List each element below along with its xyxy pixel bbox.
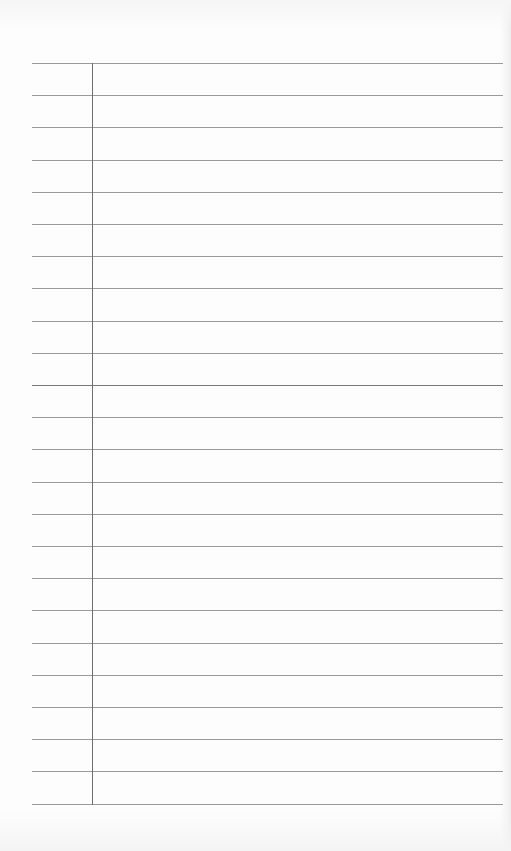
ruled-line	[32, 707, 503, 708]
ruled-line	[32, 160, 503, 161]
top-edge-shading	[0, 0, 511, 30]
ruled-line	[32, 256, 503, 257]
ruled-line	[32, 192, 503, 193]
ruled-line	[32, 675, 503, 676]
ruled-line	[32, 224, 503, 225]
ruled-line	[32, 771, 503, 772]
ruled-paper-sheet	[0, 0, 511, 851]
ruled-line	[32, 288, 503, 289]
ruled-line	[32, 643, 503, 644]
ruled-line	[32, 546, 503, 547]
ruled-line	[32, 385, 503, 386]
bottom-edge-shading	[0, 811, 511, 851]
ruled-line	[32, 353, 503, 354]
ruled-line	[32, 514, 503, 515]
ruled-line	[32, 482, 503, 483]
margin-line	[92, 63, 93, 805]
ruled-line	[32, 804, 503, 805]
ruled-line	[32, 63, 503, 64]
ruled-line	[32, 127, 503, 128]
ruled-line	[32, 95, 503, 96]
ruled-line	[32, 578, 503, 579]
ruled-line	[32, 321, 503, 322]
ruled-line	[32, 739, 503, 740]
ruled-line	[32, 610, 503, 611]
ruled-line	[32, 449, 503, 450]
ruled-line	[32, 417, 503, 418]
